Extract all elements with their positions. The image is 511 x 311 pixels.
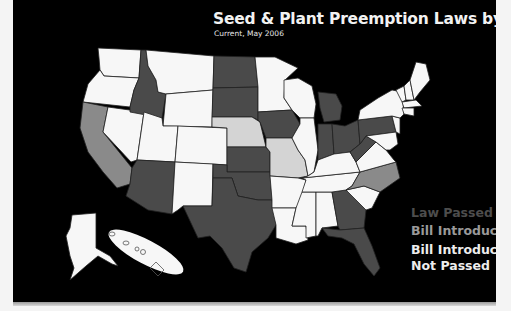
state-arizona[interactable]: [126, 160, 175, 214]
state-alaska[interactable]: [66, 213, 118, 280]
state-new-york[interactable]: [358, 90, 404, 120]
state-connecticut[interactable]: [402, 108, 414, 116]
state-south-dakota[interactable]: [212, 87, 258, 120]
state-wyoming[interactable]: [163, 90, 213, 127]
legend-bill-introduced-not-passed: Bill Introduced, Not Passed: [411, 242, 496, 274]
legend-bill-introduced-not-passed-line2: Not Passed: [411, 258, 496, 274]
legend-law-passed: Law Passed: [411, 204, 496, 222]
state-massachusetts[interactable]: [402, 100, 422, 108]
state-colorado[interactable]: [175, 126, 227, 165]
map-title: Seed & Plant Preemption Laws by State: [213, 10, 496, 28]
legend-bill-introduced: Bill Introduced: [411, 222, 496, 240]
state-michigan[interactable]: [318, 92, 342, 122]
state-washington[interactable]: [98, 48, 141, 78]
map-subtitle: Current, May 2006: [214, 29, 284, 38]
bottom-strip: [13, 302, 496, 306]
state-maine[interactable]: [410, 62, 430, 100]
state-kansas[interactable]: [227, 147, 270, 172]
legend-bill-introduced-not-passed-line1: Bill Introduced,: [411, 242, 496, 258]
map-panel: Seed & Plant Preemption Laws by State Cu…: [13, 0, 496, 302]
legend: Law Passed Bill Introduced Bill Introduc…: [411, 204, 496, 274]
state-iowa[interactable]: [258, 110, 300, 138]
state-florida[interactable]: [322, 228, 380, 276]
state-hawaii[interactable]: [103, 222, 188, 283]
state-north-dakota[interactable]: [213, 56, 258, 88]
